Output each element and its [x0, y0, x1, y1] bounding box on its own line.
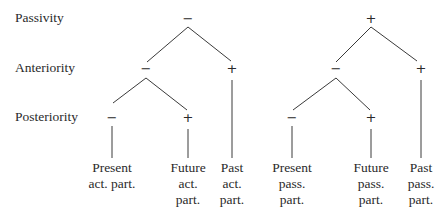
leaf-line: pass.	[257, 176, 327, 192]
row-label-anteriority: Anteriority	[15, 60, 75, 76]
leaf-past-passive-participle: Past pass. part.	[386, 160, 448, 208]
leaf-line: Past	[386, 160, 448, 176]
right-posteriority-plus-node: +	[361, 111, 381, 125]
right-root-node: +	[361, 12, 381, 26]
left-posteriority-minus-node: −	[102, 111, 122, 125]
right-posteriority-minus-node: −	[282, 111, 302, 125]
left-posteriority-plus-node: +	[178, 111, 198, 125]
left-anteriority-plus-node: +	[222, 62, 242, 76]
row-label-passivity: Passivity	[15, 10, 64, 26]
leaf-line: pass.	[386, 176, 448, 192]
right-anteriority-minus-node: −	[326, 62, 346, 76]
leaf-line: act. part.	[77, 176, 147, 192]
leaf-line: Present	[77, 160, 147, 176]
right-anteriority-plus-node: +	[411, 62, 431, 76]
row-label-posteriority: Posteriority	[15, 109, 78, 125]
left-root-node: −	[178, 12, 198, 26]
leaf-present-active-participle: Present act. part.	[77, 160, 147, 192]
left-anteriority-minus-node: −	[136, 62, 156, 76]
leaf-line: Present	[257, 160, 327, 176]
leaf-present-passive-participle: Present pass. part.	[257, 160, 327, 208]
leaf-line: part.	[386, 192, 448, 208]
leaf-line: part.	[257, 192, 327, 208]
